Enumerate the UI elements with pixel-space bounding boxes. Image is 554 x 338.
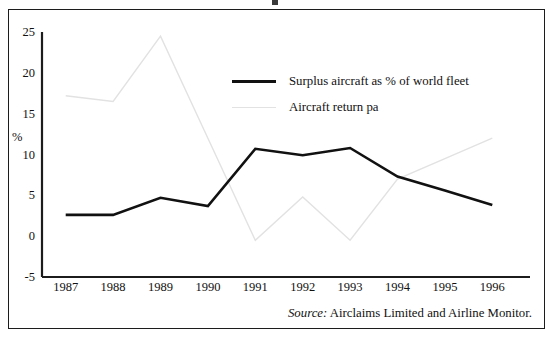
source-label: Source:: [288, 306, 327, 320]
y-axis-tick-0: 0: [5, 230, 35, 243]
x-axis-tick-1993: 1993: [323, 281, 377, 294]
legend-swatch-aircraft-return: [232, 107, 276, 108]
y-axis-unit-label: %: [12, 131, 22, 144]
y-axis-tick-5: 5: [5, 189, 35, 202]
series-group: [66, 36, 493, 240]
x-axis-tick-1991: 1991: [228, 281, 282, 294]
x-axis-tick-1994: 1994: [371, 281, 425, 294]
x-axis-tick-1990: 1990: [181, 281, 235, 294]
chart-legend: Surplus aircraft as % of world fleet Air…: [232, 68, 492, 120]
x-axis-tick-1987: 1987: [39, 281, 93, 294]
legend-label-surplus-aircraft: Surplus aircraft as % of world fleet: [289, 74, 469, 89]
legend-item-aircraft-return: Aircraft return pa: [232, 94, 492, 120]
line-series-surplus-aircraft: [66, 148, 493, 215]
y-axis-tick-15: 15: [5, 108, 35, 121]
x-axis-tick-1988: 1988: [86, 281, 140, 294]
legend-item-surplus-aircraft: Surplus aircraft as % of world fleet: [232, 68, 492, 94]
plot-area: 2520151050-5 % 1987198819891990199119921…: [0, 0, 554, 338]
x-axis-tick-1996: 1996: [465, 281, 519, 294]
x-axis-tick-1989: 1989: [134, 281, 188, 294]
y-axis-tick-25: 25: [5, 26, 35, 39]
y-axis-tick-neg5: -5: [5, 271, 35, 284]
figure-container: 2520151050-5 % 1987198819891990199119921…: [0, 0, 554, 338]
x-axis-tick-1995: 1995: [418, 281, 472, 294]
legend-swatch-surplus-aircraft: [232, 80, 276, 83]
source-attribution: Source: Airclaims Limited and Airline Mo…: [288, 306, 532, 321]
source-value: Airclaims Limited and Airline Monitor.: [330, 306, 532, 320]
y-axis-tick-10: 10: [5, 149, 35, 162]
y-axis-tick-20: 20: [5, 67, 35, 80]
legend-label-aircraft-return: Aircraft return pa: [289, 100, 379, 115]
x-axis-tick-1992: 1992: [276, 281, 330, 294]
